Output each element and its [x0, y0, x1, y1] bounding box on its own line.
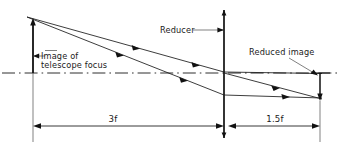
- object-label-line-2: telescope focus: [41, 60, 107, 70]
- reducer-lens: [222, 10, 227, 138]
- dimension-3f-label: 3f: [109, 114, 119, 124]
- dimension-3f: 3f: [33, 113, 224, 129]
- extension-lines: [33, 73, 320, 142]
- reducer-label-leader-arrowhead: [217, 27, 224, 32]
- dimension-3f-left-arrowhead: [33, 123, 41, 128]
- image-arrow-head: [317, 94, 322, 102]
- reducer-lens-bottom-arrowhead: [222, 133, 227, 139]
- dimension-1p5f-label: 1.5f: [266, 114, 284, 124]
- reducer-label: Reducer: [160, 25, 195, 35]
- reducer-lens-top-arrowhead: [222, 10, 227, 16]
- text-labels: Image of telescope focus Reducer Reduced…: [41, 25, 315, 70]
- object-arrow: [30, 18, 36, 73]
- dimension-1p5f-right-arrowhead: [312, 123, 320, 128]
- optics-diagram-canvas: 3f 1.5f Image of telescope focus Reducer…: [0, 0, 342, 150]
- dimension-3f-right-arrowhead: [216, 123, 224, 128]
- object-label-leader-arrowhead: [33, 54, 39, 59]
- ray-diagram-figure: 3f 1.5f Image of telescope focus Reducer…: [0, 0, 342, 150]
- dimension-1p5f-left-arrowhead: [228, 123, 236, 128]
- image-label-leader: [289, 58, 314, 73]
- reduced-image-label: Reduced image: [249, 47, 315, 57]
- dimension-1p5f: 1.5f: [228, 113, 320, 129]
- ray-lower-arrowhead-3: [281, 94, 290, 100]
